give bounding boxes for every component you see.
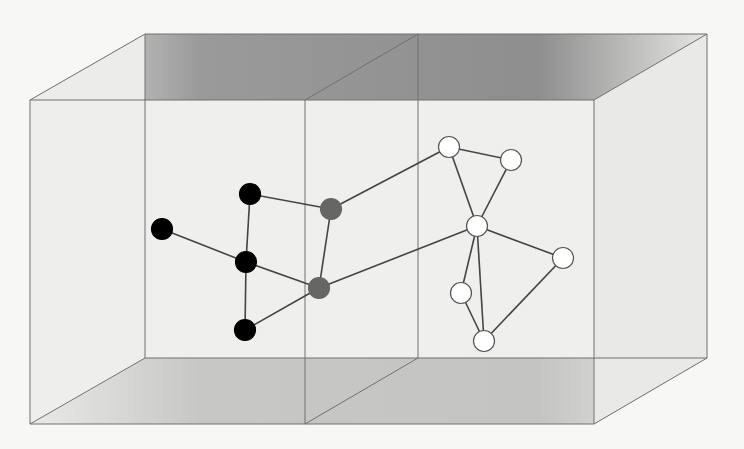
node-white-i	[467, 216, 488, 237]
node-white-l	[474, 331, 495, 352]
node-white-k	[451, 283, 472, 304]
node-black-d	[235, 320, 256, 341]
node-gray-e	[321, 199, 342, 220]
node-white-j	[553, 248, 574, 269]
node-black-a	[152, 219, 173, 240]
right-face	[594, 34, 707, 424]
network-box-diagram	[0, 0, 744, 449]
node-black-c	[236, 252, 257, 273]
node-black-b	[240, 184, 261, 205]
box-frame	[30, 34, 707, 424]
node-gray-f	[309, 278, 330, 299]
node-white-g	[439, 137, 460, 158]
node-white-h	[501, 150, 522, 171]
